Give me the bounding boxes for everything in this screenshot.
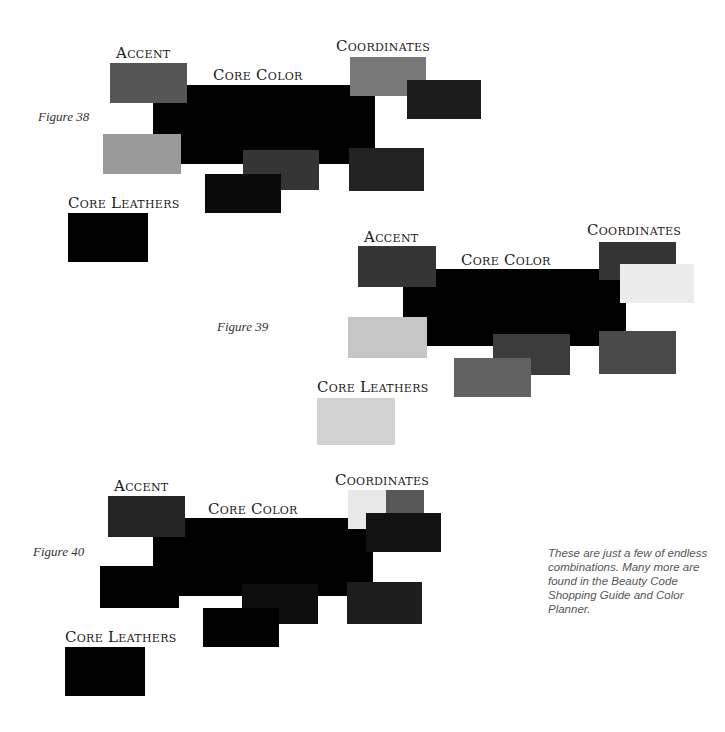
label-accent: Accent xyxy=(364,230,418,245)
combinations-note: These are just a few of endless combinat… xyxy=(548,546,718,616)
label-core-leathers: Core Leathers xyxy=(65,630,177,645)
swatch-center-bottom xyxy=(454,358,531,397)
swatch-accent xyxy=(108,496,185,537)
label-core-color: Core Color xyxy=(208,502,298,517)
swatch-core-leathers xyxy=(65,647,145,696)
figure-caption: Figure 38 xyxy=(38,110,89,123)
swatch-core-leathers xyxy=(68,213,148,262)
label-coordinates: Coordinates xyxy=(587,223,681,238)
label-core-color: Core Color xyxy=(213,68,303,83)
swatch-coordinate-dark xyxy=(366,513,441,552)
swatch-right xyxy=(599,331,676,374)
swatch-left xyxy=(100,566,179,608)
swatch-right xyxy=(349,148,424,191)
label-accent: Accent xyxy=(116,46,170,61)
label-coordinates: Coordinates xyxy=(335,473,429,488)
swatch-accent xyxy=(358,246,436,287)
label-core-color: Core Color xyxy=(461,253,551,268)
label-core-leathers: Core Leathers xyxy=(68,196,180,211)
swatch-core-leathers xyxy=(317,398,395,445)
figure-caption: Figure 40 xyxy=(33,545,84,558)
label-core-leathers: Core Leathers xyxy=(317,380,429,395)
swatch-left-light xyxy=(348,317,427,358)
swatch-accent xyxy=(110,63,187,103)
label-accent: Accent xyxy=(114,479,168,494)
swatch-left-light xyxy=(103,134,181,174)
swatch-coordinate-gray xyxy=(386,490,424,513)
swatch-coordinate-2 xyxy=(620,264,694,303)
swatch-center-bottom xyxy=(203,608,279,647)
label-coordinates: Coordinates xyxy=(336,39,430,54)
swatch-center-bottom xyxy=(205,174,281,213)
swatch-coordinate-2 xyxy=(407,80,481,119)
swatch-right xyxy=(347,582,422,624)
figure-caption: Figure 39 xyxy=(217,320,268,333)
